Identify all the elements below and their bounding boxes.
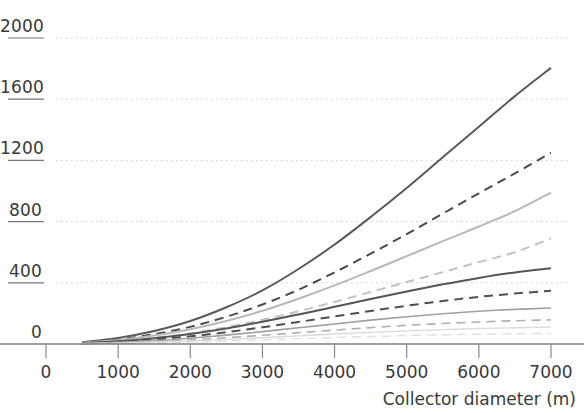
x-tick-label: 7000 (511, 362, 584, 382)
gridlines (56, 38, 571, 283)
series-line-1 (82, 68, 551, 342)
x-axis-title: Collector diameter (m) (383, 389, 576, 409)
x-tick-label: 2000 (150, 362, 230, 382)
series-line-4 (82, 238, 551, 343)
y-tick-label: 1600 (0, 77, 42, 97)
x-tick-label: 4000 (295, 362, 375, 382)
chart-plot-area (0, 0, 584, 413)
x-axis-ticks (46, 344, 551, 358)
x-tick-label: 6000 (439, 362, 519, 382)
x-tick-label: 1000 (78, 362, 158, 382)
chart-container: 0400800120016002000 01000200030004000500… (0, 0, 584, 413)
x-tick-label: 3000 (222, 362, 302, 382)
data-series (82, 68, 551, 344)
series-line-2 (82, 153, 551, 343)
x-tick-label: 0 (6, 362, 86, 382)
y-label-underlines (8, 38, 44, 283)
y-tick-label: 400 (0, 261, 42, 281)
y-tick-label: 800 (0, 200, 42, 220)
y-tick-label: 1200 (0, 138, 42, 158)
x-tick-label: 5000 (367, 362, 447, 382)
y-tick-label: 0 (0, 322, 42, 342)
y-tick-label: 2000 (0, 16, 42, 36)
series-line-3 (82, 193, 551, 343)
